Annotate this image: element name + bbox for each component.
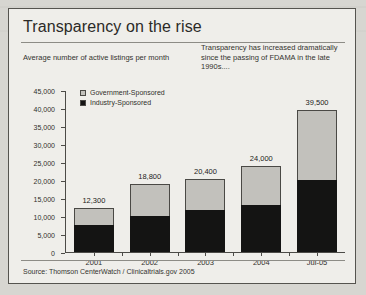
bar-segment-industry-sponsored[interactable] [185, 210, 225, 252]
x-axis-category-divider [233, 252, 234, 256]
bar-value-label: 24,000 [250, 154, 273, 163]
y-axis-tick-label: 5,000 [37, 232, 55, 239]
y-axis-tick-label: 15,000 [34, 196, 55, 203]
stacked-bar[interactable]: 12,300 [74, 208, 114, 252]
page-title: Transparency on the rise [23, 18, 202, 36]
scanned-page: Transparency on the rise Average number … [0, 0, 366, 295]
x-axis-tick [150, 252, 151, 256]
bar-segment-industry-sponsored[interactable] [297, 180, 337, 252]
bar-value-label: 20,400 [194, 167, 217, 176]
y-axis-tick-label: 30,000 [34, 142, 55, 149]
y-axis-tick: 25,000 [61, 163, 65, 164]
source-caption: Source: Thomson CenterWatch / Clinicaltr… [23, 268, 195, 275]
stacked-bar[interactable]: 18,800 [130, 184, 170, 252]
bar-value-label: 18,800 [138, 172, 161, 181]
bar-slot: 24,0002004 [233, 91, 289, 252]
y-axis-tick: 40,000 [61, 109, 65, 110]
bar-segment-government-sponsored[interactable] [74, 208, 114, 225]
stacked-bar[interactable]: 24,000 [241, 166, 281, 252]
bar-slot: 39,500Jul-05 [289, 91, 345, 252]
y-axis-tick: 45,000 [61, 91, 65, 92]
y-axis-tick: 30,000 [61, 145, 65, 146]
bar-slot: 12,3002001 [66, 91, 122, 252]
y-axis-tick: 20,000 [61, 181, 65, 182]
x-axis-tick [94, 252, 95, 256]
x-axis-category-divider [178, 252, 179, 256]
x-axis-tick [261, 252, 262, 256]
bar-value-label: 39,500 [306, 98, 329, 107]
bar-segment-industry-sponsored[interactable] [130, 216, 170, 252]
bar-group: 12,300200118,800200220,400200324,0002004… [66, 91, 345, 252]
bar-segment-industry-sponsored[interactable] [74, 225, 114, 252]
bar-segment-government-sponsored[interactable] [130, 184, 170, 216]
x-axis-tick [205, 252, 206, 256]
y-axis-tick-label: 35,000 [34, 124, 55, 131]
y-axis-tick-label: 25,000 [34, 160, 55, 167]
x-axis-tick [317, 252, 318, 256]
bar-value-label: 12,300 [82, 196, 105, 205]
x-axis-category-divider [122, 252, 123, 256]
bar-slot: 20,4002003 [178, 91, 234, 252]
bar-segment-government-sponsored[interactable] [241, 166, 281, 206]
chart-card: Transparency on the rise Average number … [8, 8, 356, 284]
y-axis-tick-label: 0 [51, 250, 55, 257]
y-axis-tick: 15,000 [61, 199, 65, 200]
y-axis-tick-label: 10,000 [34, 214, 55, 221]
y-axis-tick: 5,000 [61, 235, 65, 236]
y-axis-tick-label: 40,000 [34, 106, 55, 113]
bar-segment-government-sponsored[interactable] [297, 110, 337, 180]
stacked-bar[interactable]: 20,400 [185, 179, 225, 252]
stacked-bar[interactable]: 39,500 [297, 110, 337, 252]
bar-segment-industry-sponsored[interactable] [241, 205, 281, 252]
chart-annotation: Transparency has increased dramatically … [201, 43, 346, 72]
bar-slot: 18,8002002 [122, 91, 178, 252]
plot-area: 05,00010,00015,00020,00025,00030,00035,0… [65, 91, 345, 253]
y-axis-tick-label: 45,000 [34, 88, 55, 95]
y-axis-tick: 35,000 [61, 127, 65, 128]
source-divider [21, 260, 345, 261]
y-axis-tick: 10,000 [61, 217, 65, 218]
y-axis-tick-label: 20,000 [34, 178, 55, 185]
bar-segment-government-sponsored[interactable] [185, 179, 225, 210]
chart-subtitle: Average number of active listings per mo… [23, 53, 169, 62]
x-axis-category-divider [289, 252, 290, 256]
y-axis-tick: 0 [61, 253, 65, 254]
